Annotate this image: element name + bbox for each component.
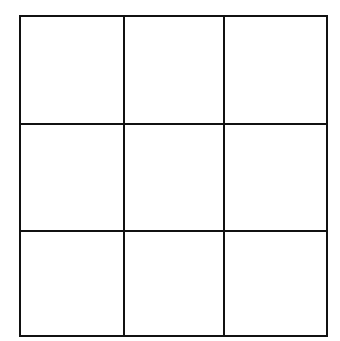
grid-cell-r1-c1 [124,124,224,231]
grid-cell-r1-c0 [20,124,124,231]
grid-cell-r2-c2 [224,231,327,336]
grid-cell-r2-c1 [124,231,224,336]
grid-cell-r0-c0 [20,16,124,124]
grid-cell-r1-c2 [224,124,327,231]
grid-cells [20,16,327,336]
grid-diagram [0,0,340,341]
grid-cell-r2-c0 [20,231,124,336]
grid-cell-r0-c2 [224,16,327,124]
grid-cell-r0-c1 [124,16,224,124]
